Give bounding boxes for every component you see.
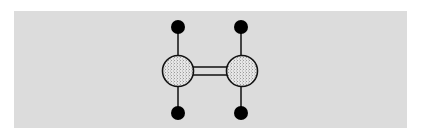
- double-bond-c1-c2: [192, 67, 228, 75]
- carbon-atom-2: [227, 56, 258, 87]
- carbon-atom-1: [163, 56, 194, 87]
- hydrogen-atom-1: [171, 20, 185, 34]
- hydrogen-atom-2: [234, 20, 248, 34]
- ethylene-molecule-diagram: [0, 0, 422, 135]
- hydrogen-atom-4: [234, 106, 248, 120]
- hydrogen-atom-3: [171, 106, 185, 120]
